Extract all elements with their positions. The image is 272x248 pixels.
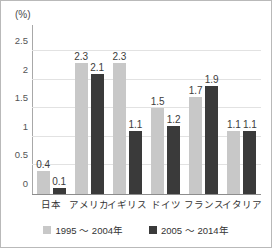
bar-value-label: 1.1 (227, 119, 241, 130)
legend-label: 1995 ～ 2004年 (55, 223, 123, 237)
bar-group: 2.31.1 (108, 37, 146, 194)
bar: 0.4 (37, 171, 50, 194)
y-axis-tick-label: 1 (23, 120, 28, 131)
bar: 2.3 (75, 63, 88, 194)
bar-value-label: 1.1 (128, 119, 142, 130)
y-axis-tick-label: 2 (23, 63, 28, 74)
y-axis-tick-label: 2.5 (15, 35, 28, 46)
x-axis-category-label: ドイツ (151, 197, 181, 211)
legend-swatch (149, 226, 157, 234)
plot-area: 00.511.522.5 0.40.12.32.12.31.11.51.21.7… (32, 37, 261, 194)
legend-item: 2005 ～ 2014年 (149, 223, 229, 237)
bar-value-label: 0.1 (52, 176, 66, 187)
bar-value-label: 1.2 (167, 114, 181, 125)
y-axis-tick-label: 0.5 (15, 149, 28, 160)
y-axis-tick-label: 1.5 (15, 92, 28, 103)
y-axis-unit-label: (%) (15, 9, 31, 20)
bar-value-label: 1.5 (151, 96, 165, 107)
x-axis-category-label: 日本 (41, 197, 61, 211)
bar-group: 1.11.1 (223, 37, 261, 194)
bar-value-label: 1.7 (189, 85, 203, 96)
bar-value-label: 1.9 (205, 74, 219, 85)
bar: 1.1 (129, 131, 142, 194)
bar: 1.1 (243, 131, 256, 194)
bar-group: 0.40.1 (32, 37, 70, 194)
bar: 1.2 (167, 126, 180, 195)
x-axis-category-label: イギリス (107, 197, 147, 211)
bar-value-label: 2.3 (112, 51, 126, 62)
bar-value-label: 0.4 (36, 159, 50, 170)
x-axis-category-label: イタリア (222, 197, 262, 211)
bar: 1.5 (151, 108, 164, 194)
bar-group: 1.71.9 (185, 37, 223, 194)
bar-group: 2.32.1 (70, 37, 108, 194)
x-axis-line (32, 194, 261, 195)
bar-value-label: 2.3 (74, 51, 88, 62)
bar: 1.7 (189, 97, 202, 194)
y-axis-tick-label: 0 (23, 178, 28, 189)
bar-value-label: 2.1 (90, 62, 104, 73)
legend-swatch (43, 226, 51, 234)
legend-item: 1995 ～ 2004年 (43, 223, 123, 237)
legend-label: 2005 ～ 2014年 (161, 223, 229, 237)
bar: 1.1 (227, 131, 240, 194)
bar: 1.9 (205, 86, 218, 194)
x-axis-category-label: フランス (184, 197, 224, 211)
bar: 2.1 (91, 74, 104, 194)
x-axis-category-label: アメリカ (69, 197, 109, 211)
bar: 0.1 (53, 188, 66, 194)
bar-chart-figure: (%) 00.511.522.5 0.40.12.32.12.31.11.51.… (0, 0, 272, 248)
bar-value-label: 1.1 (243, 119, 257, 130)
bar-group: 1.51.2 (147, 37, 185, 194)
chart-legend: 1995 ～ 2004年2005 ～ 2014年 (1, 223, 271, 237)
bar: 2.3 (113, 63, 126, 194)
